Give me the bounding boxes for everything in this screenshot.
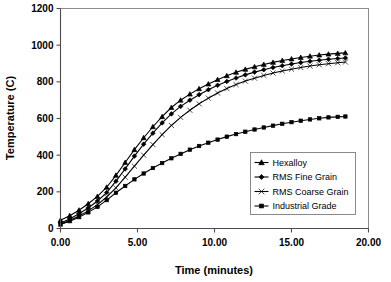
data-point-square — [179, 152, 182, 155]
y-tick-label: 1000 — [31, 40, 54, 51]
data-point-square — [253, 128, 256, 131]
data-point-square — [207, 141, 210, 144]
data-point-square — [318, 117, 321, 120]
data-point-square — [327, 116, 330, 119]
y-tick-label: 600 — [37, 113, 54, 124]
data-point-square — [123, 184, 126, 187]
chart-figure: 0.005.0010.0015.0020.00 0200400600800100… — [0, 0, 391, 282]
x-axis-tick-labels: 0.005.0010.0015.0020.00 — [51, 229, 382, 248]
x-tick-label: 0.00 — [51, 237, 71, 248]
x-tick-label: 10.00 — [202, 237, 227, 248]
y-tick-label: 800 — [37, 76, 54, 87]
data-point-square — [142, 172, 145, 175]
data-point-square — [281, 122, 284, 125]
data-point-square — [77, 215, 80, 218]
data-point-square — [96, 205, 99, 208]
data-point-square — [308, 118, 311, 121]
legend-label: RMS Coarse Grain — [273, 187, 349, 197]
data-point-square — [160, 161, 163, 164]
legend-label: Hexalloy — [273, 158, 308, 168]
y-axis-title: Temperature (C) — [4, 76, 16, 160]
x-tick-label: 20.00 — [356, 237, 381, 248]
data-point-square — [151, 166, 154, 169]
y-axis-tick-labels: 020040060080010001200 — [31, 3, 60, 234]
y-tick-label: 200 — [37, 186, 54, 197]
data-point-square — [244, 130, 247, 133]
x-tick-label: 5.00 — [128, 237, 148, 248]
legend-label: Industrial Grade — [273, 201, 337, 211]
y-tick-label: 0 — [48, 223, 54, 234]
data-point-square — [299, 119, 302, 122]
y-tick-label: 400 — [37, 150, 54, 161]
data-point-square — [87, 211, 90, 214]
data-point-square — [262, 126, 265, 129]
data-point-square — [271, 124, 274, 127]
legend-label: RMS Fine Grain — [273, 172, 338, 182]
data-point-square — [105, 198, 108, 201]
data-point-square — [234, 132, 237, 135]
line-chart: 0.005.0010.0015.0020.00 0200400600800100… — [0, 0, 391, 282]
data-point-square — [260, 204, 264, 208]
data-point-square — [170, 157, 173, 160]
data-point-square — [336, 115, 339, 118]
data-point-square — [290, 120, 293, 123]
data-point-square — [114, 191, 117, 194]
data-point-square — [216, 138, 219, 141]
data-point-square — [133, 178, 136, 181]
data-point-square — [344, 115, 347, 118]
data-point-square — [188, 148, 191, 151]
data-point-square — [197, 144, 200, 147]
y-tick-label: 1200 — [31, 3, 54, 14]
data-point-square — [225, 135, 228, 138]
x-tick-label: 15.00 — [279, 237, 304, 248]
chart-legend[interactable]: HexalloyRMS Fine GrainRMS Coarse GrainIn… — [251, 153, 356, 215]
x-axis-title: Time (minutes) — [175, 264, 253, 276]
data-point-square — [68, 219, 71, 222]
